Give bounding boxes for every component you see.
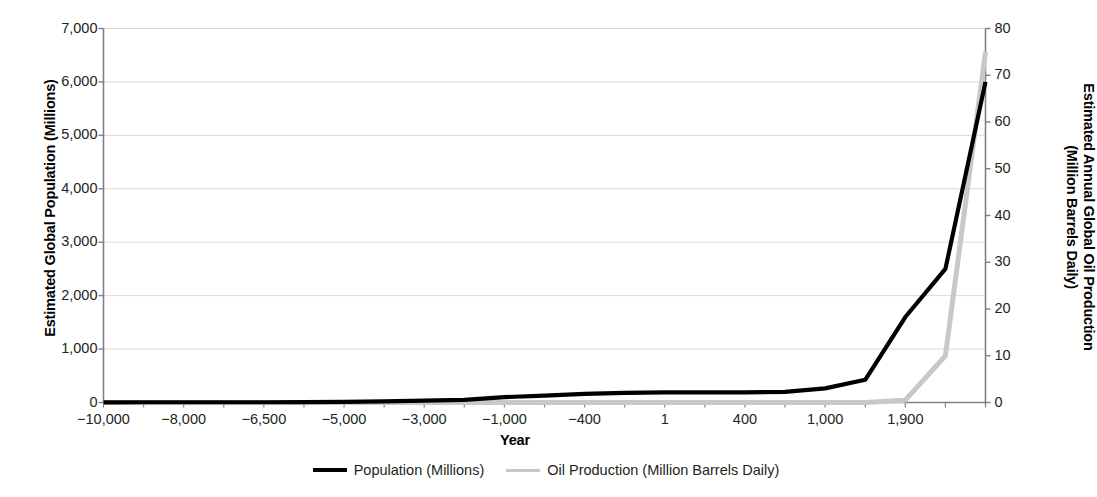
legend-label: Oil Production (Million Barrels Daily) <box>547 462 779 478</box>
chart-legend: Population (Millions)Oil Production (Mil… <box>0 462 1092 478</box>
legend-swatch-icon <box>506 469 540 472</box>
legend-entry[interactable]: Oil Production (Million Barrels Daily) <box>506 462 779 478</box>
legend-swatch-icon <box>313 468 347 472</box>
axis-lines <box>104 29 986 403</box>
legend-label: Population (Millions) <box>354 462 485 478</box>
tick-marks <box>99 29 991 408</box>
legend-entry[interactable]: Population (Millions) <box>313 462 485 478</box>
series-line-oil <box>104 52 986 403</box>
data-series-layer <box>104 52 986 403</box>
gridlines <box>104 29 986 403</box>
